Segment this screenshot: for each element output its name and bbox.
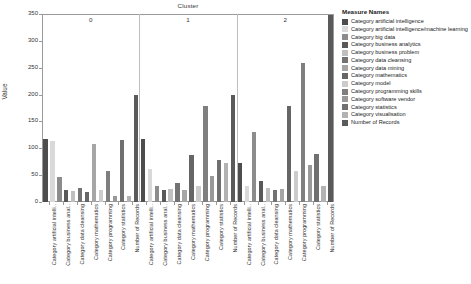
bar[interactable] bbox=[134, 95, 138, 202]
x-tick-label: Category artificial intelli.. bbox=[246, 204, 252, 265]
bar[interactable] bbox=[71, 191, 75, 202]
legend-item[interactable]: Category mathematics bbox=[342, 72, 468, 79]
legend-item[interactable]: Category statistics bbox=[342, 104, 468, 111]
bar[interactable] bbox=[64, 190, 68, 202]
y-tick-label: 50 bbox=[12, 171, 38, 177]
bar[interactable] bbox=[224, 163, 228, 202]
x-tick-label: Category artificial intelli.. bbox=[51, 204, 57, 265]
bar[interactable] bbox=[266, 188, 270, 202]
bar[interactable] bbox=[50, 141, 54, 202]
bar[interactable] bbox=[217, 160, 221, 202]
bar[interactable] bbox=[162, 190, 166, 202]
bar-series-container bbox=[42, 14, 334, 202]
legend-item[interactable]: Category business problem bbox=[342, 49, 468, 56]
bar[interactable] bbox=[245, 186, 249, 202]
x-tick-label: Category mathematics bbox=[190, 204, 196, 260]
x-tick-label: Category programming bbox=[301, 204, 307, 261]
legend-item[interactable]: Category artificial intelligence bbox=[342, 18, 468, 25]
x-tick-label: Category programming bbox=[107, 204, 113, 261]
bar[interactable] bbox=[92, 144, 96, 202]
legend-swatch-icon bbox=[342, 89, 348, 95]
x-tick-label: Number of Records bbox=[232, 204, 238, 252]
legend-item-label: Category visualisation bbox=[351, 111, 406, 118]
legend-item[interactable]: Category artificial intelligence/machine… bbox=[342, 26, 468, 33]
bar[interactable] bbox=[120, 140, 124, 202]
bar[interactable] bbox=[175, 183, 179, 202]
bar[interactable] bbox=[189, 155, 193, 202]
bar[interactable] bbox=[231, 95, 235, 202]
legend-item[interactable]: Category model bbox=[342, 80, 468, 87]
bar[interactable] bbox=[57, 177, 61, 202]
legend-item-label: Category business analytics bbox=[351, 41, 421, 48]
y-tick-label: 300 bbox=[12, 37, 38, 43]
bar[interactable] bbox=[328, 15, 332, 202]
bar[interactable] bbox=[210, 176, 214, 202]
bar[interactable] bbox=[259, 181, 263, 202]
bar[interactable] bbox=[273, 190, 277, 202]
legend-swatch-icon bbox=[342, 57, 348, 63]
x-tick-label: Category data cleansing bbox=[79, 204, 85, 264]
legend-item-label: Category data mining bbox=[351, 65, 404, 72]
bar[interactable] bbox=[155, 186, 159, 202]
y-tick-label: 150 bbox=[12, 117, 38, 123]
legend-item[interactable]: Category data mining bbox=[342, 65, 468, 72]
legend-item[interactable]: Category big data bbox=[342, 34, 468, 41]
y-tick-label: 350 bbox=[12, 10, 38, 16]
bar[interactable] bbox=[168, 189, 172, 202]
y-tick-label: 250 bbox=[12, 64, 38, 70]
bar[interactable] bbox=[113, 196, 117, 202]
legend-item-label: Category model bbox=[351, 80, 391, 87]
bar[interactable] bbox=[127, 196, 131, 202]
legend-swatch-icon bbox=[342, 120, 348, 126]
legend-item[interactable]: Number of Records bbox=[342, 119, 468, 126]
legend-item-label: Category artificial intelligence bbox=[351, 18, 424, 25]
legend-item[interactable]: Category programming skills bbox=[342, 88, 468, 95]
y-tick-mark bbox=[39, 202, 42, 203]
x-axis-labels: Category artificial intelli..Category bu… bbox=[42, 204, 334, 282]
bar[interactable] bbox=[148, 169, 152, 202]
bar[interactable] bbox=[287, 106, 291, 202]
bar[interactable] bbox=[314, 154, 318, 202]
x-tick-label: Category artificial intelli.. bbox=[148, 204, 154, 265]
legend-item-label: Category business problem bbox=[351, 49, 419, 56]
bar[interactable] bbox=[141, 139, 145, 202]
bar[interactable] bbox=[238, 163, 242, 202]
bar[interactable] bbox=[182, 190, 186, 202]
x-tick-label: Number of Records bbox=[134, 204, 140, 252]
bar[interactable] bbox=[308, 165, 312, 202]
legend-item-label: Category mathematics bbox=[351, 72, 407, 79]
bar[interactable] bbox=[106, 171, 110, 202]
bar[interactable] bbox=[85, 192, 89, 202]
legend-item-label: Category data cleansing bbox=[351, 57, 411, 64]
bar[interactable] bbox=[294, 171, 298, 202]
x-tick-label: Category statistics bbox=[218, 204, 224, 250]
y-tick-label: 100 bbox=[12, 144, 38, 150]
legend-swatch-icon bbox=[342, 26, 348, 32]
legend-item-label: Category big data bbox=[351, 34, 395, 41]
x-tick-label: Category mathematics bbox=[93, 204, 99, 260]
legend-item-label: Category artificial intelligence/machine… bbox=[351, 26, 468, 33]
bar[interactable] bbox=[196, 186, 200, 202]
bar[interactable] bbox=[280, 189, 284, 202]
legend: Measure Names Category artificial intell… bbox=[342, 8, 468, 127]
bar[interactable] bbox=[43, 139, 47, 202]
bar[interactable] bbox=[203, 106, 207, 202]
legend-item[interactable]: Category business analytics bbox=[342, 41, 468, 48]
bar[interactable] bbox=[301, 63, 305, 202]
bar[interactable] bbox=[78, 188, 82, 203]
x-tick-label: Category programming bbox=[204, 204, 210, 261]
legend-item[interactable]: Category visualisation bbox=[342, 111, 468, 118]
legend-swatch-icon bbox=[342, 19, 348, 25]
x-tick-label: Number of Records bbox=[329, 204, 335, 252]
legend-swatch-icon bbox=[342, 50, 348, 56]
legend-item[interactable]: Category software vendor bbox=[342, 96, 468, 103]
y-tick-label: 0 bbox=[12, 198, 38, 204]
bar[interactable] bbox=[252, 132, 256, 202]
bar[interactable] bbox=[321, 186, 325, 202]
x-tick-label: Category mathematics bbox=[287, 204, 293, 260]
legend-swatch-icon bbox=[342, 65, 348, 71]
legend-item[interactable]: Category data cleansing bbox=[342, 57, 468, 64]
legend-swatch-icon bbox=[342, 96, 348, 102]
bar[interactable] bbox=[99, 190, 103, 202]
legend-swatch-icon bbox=[342, 81, 348, 87]
